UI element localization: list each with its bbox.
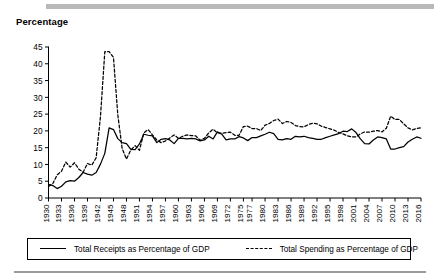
legend-solid-line-icon	[40, 244, 66, 254]
legend-label-receipts: Total Receipts as Percentage of GDP	[74, 245, 210, 254]
y-axis-tick-label: 15	[33, 143, 43, 153]
y-axis-tick-label: 35	[33, 76, 43, 86]
chart-legend: Total Receipts as Percentage of GDP Tota…	[27, 238, 411, 260]
y-axis-tick-label: 10	[33, 160, 43, 170]
legend-item-spending: Total Spending as Percentage of GDP	[246, 244, 418, 254]
y-axis-tick-label: 0	[38, 193, 43, 203]
legend-label-spending: Total Spending as Percentage of GDP	[280, 245, 418, 254]
x-axis-tick-label: 1930	[42, 204, 51, 223]
x-axis-tick-label: 1948	[119, 204, 128, 223]
line-chart: 0510152025303540451930193319361939194219…	[0, 0, 440, 278]
x-axis-tick-label: 1939	[80, 204, 89, 223]
y-axis-tick-label: 40	[33, 59, 43, 69]
x-axis-tick-label: 1942	[93, 204, 102, 223]
x-axis-tick-label: 1989	[297, 204, 306, 223]
x-axis-tick-label: 1951	[132, 204, 141, 223]
series-line-receipts	[49, 128, 422, 189]
x-axis-tick-label: 1992	[310, 204, 319, 223]
x-axis-tick-label: 2016	[414, 204, 423, 223]
y-axis-tick-label: 20	[33, 126, 43, 136]
x-axis-tick-label: 1998	[336, 204, 345, 223]
legend-item-receipts: Total Receipts as Percentage of GDP	[40, 244, 210, 254]
x-axis-tick-label: 1963	[184, 204, 193, 223]
x-axis-tick-label: 1977	[245, 204, 254, 223]
bottom-divider-rule	[14, 271, 426, 273]
x-axis-tick-label: 2010	[388, 204, 397, 223]
x-axis-tick-label: 1980	[258, 204, 267, 223]
x-axis-tick-label: 2004	[362, 204, 371, 223]
x-axis-tick-label: 1986	[284, 204, 293, 223]
x-axis-tick-label: 1983	[271, 204, 280, 223]
x-axis-tick-label: 1936	[67, 204, 76, 223]
x-axis-tick-label: 1954	[145, 204, 154, 223]
x-axis-tick-label: 1933	[54, 204, 63, 223]
x-axis-tick-label: 1975	[236, 204, 245, 223]
y-axis-tick-label: 5	[38, 176, 43, 186]
x-axis-tick-label: 1960	[171, 204, 180, 223]
legend-dashed-line-icon	[246, 244, 272, 254]
series-line-spending	[49, 52, 422, 187]
y-axis-tick-label: 25	[33, 109, 43, 119]
figure-container: Percentage 05101520253035404519301933193…	[0, 0, 440, 278]
x-axis-tick-label: 1995	[323, 204, 332, 223]
plot-area: 0510152025303540451930193319361939194219…	[0, 0, 440, 278]
x-axis-tick-label: 1972	[223, 204, 232, 223]
x-axis-tick-label: 1966	[197, 204, 206, 223]
y-axis-tick-label: 30	[33, 93, 43, 103]
x-axis-tick-label: 1957	[158, 204, 167, 223]
x-axis-tick-label: 2007	[375, 204, 384, 223]
y-axis-tick-label: 45	[33, 42, 43, 52]
x-axis-tick-label: 2013	[401, 204, 410, 223]
x-axis-tick-label: 1969	[210, 204, 219, 223]
x-axis-tick-label: 2001	[349, 204, 358, 223]
x-axis-tick-label: 1945	[106, 204, 115, 223]
